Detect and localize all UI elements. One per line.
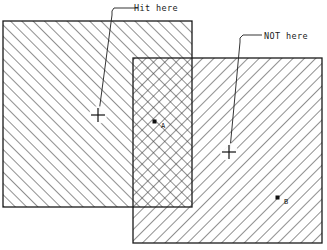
- not-here-label: NOT here: [264, 31, 308, 41]
- hit-here-crosshair-icon: [89, 106, 107, 124]
- diagram-canvas: Hit here NOT here A B: [0, 0, 327, 250]
- point-a-dot-icon: [153, 120, 157, 124]
- point-b-dot-icon: [276, 196, 280, 200]
- overlap-rect[interactable]: [133, 58, 192, 207]
- not-here-crosshair-icon: [220, 143, 238, 161]
- overlap-hatch-down: [133, 58, 192, 207]
- diagram-svg: Hit here NOT here A B: [0, 0, 327, 250]
- point-b-label: B: [284, 198, 288, 206]
- hit-here-label: Hit here: [134, 3, 178, 13]
